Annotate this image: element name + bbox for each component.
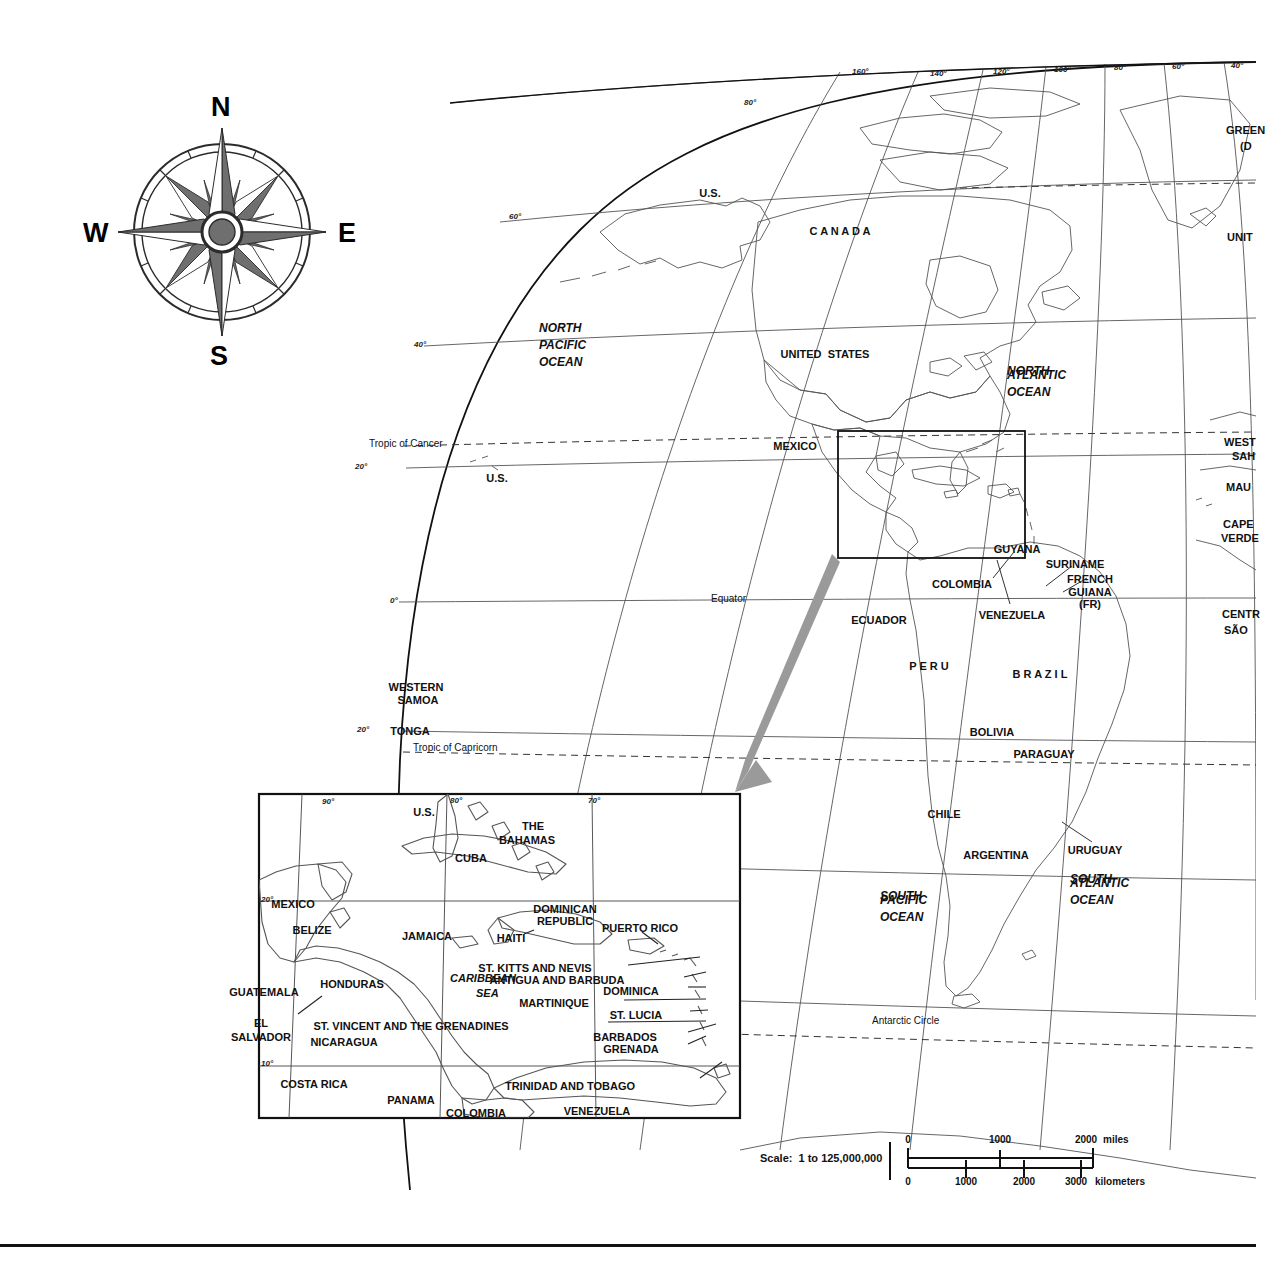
ocean-label-north-atlantic: NORTH ATLANTIC OCEAN bbox=[1007, 365, 1066, 391]
longitude-label-160: 160° bbox=[852, 68, 869, 77]
country-label-argentina: ARGENTINA bbox=[963, 849, 1028, 861]
coast-arctic-islands-2 bbox=[880, 152, 1008, 190]
coast-lesser-antilles bbox=[1020, 494, 1034, 544]
inset-label-haiti: HAITI bbox=[497, 932, 526, 944]
latitude-label-80: 80° bbox=[744, 99, 756, 108]
longitude-label-120: 120° bbox=[993, 68, 1010, 77]
longitude-label-80: 80° bbox=[1114, 64, 1126, 73]
edge-label-unit: UNIT bbox=[1227, 231, 1253, 243]
inset-label-dominica: DOMINICA bbox=[603, 985, 659, 997]
scalebar-miles-label-1000: 1000 bbox=[989, 1134, 1011, 1145]
scalebar-km-label-2000: 2000 bbox=[1013, 1176, 1035, 1187]
tropic-of-cancer-label: Tropic of Cancer bbox=[369, 438, 443, 449]
coast-tierra-del-fuego bbox=[952, 994, 980, 1008]
edge-label-mau: MAU bbox=[1226, 481, 1251, 493]
edge-label-centr: CENTR bbox=[1222, 608, 1260, 620]
latitude-label-20s: 20° bbox=[357, 726, 369, 735]
edge-label-west: WEST bbox=[1224, 436, 1256, 448]
country-label-p-e-r-u: P E R U bbox=[909, 660, 949, 672]
edge-label-sah: SAH bbox=[1232, 450, 1255, 462]
country-label-suriname: SURINAME bbox=[1046, 558, 1105, 570]
coast-newfoundland bbox=[1042, 286, 1080, 310]
inset-label-belize: BELIZE bbox=[292, 924, 331, 936]
inset-label-trinidad-and-tobago: TRINIDAD AND TOBAGO bbox=[505, 1080, 635, 1092]
scalebar-km-label-0: 0 bbox=[905, 1176, 911, 1187]
edge-label-verde: VERDE bbox=[1221, 532, 1259, 544]
country-label-guiana: GUIANA bbox=[1068, 586, 1111, 598]
coast-falklands bbox=[1022, 950, 1036, 960]
edge-label-d: (D bbox=[1240, 140, 1252, 152]
edge-label-cape: CAPE bbox=[1223, 518, 1254, 530]
page-bottom-rule bbox=[0, 1244, 1256, 1247]
inset-label-cuba: CUBA bbox=[455, 852, 487, 864]
country-label-b-r-a-z-i-l: B R A Z I L bbox=[1013, 668, 1068, 680]
inset-label-u-s: U.S. bbox=[413, 806, 434, 818]
ocean-label-south-atlantic: SOUTH ATLANTIC OCEAN bbox=[1070, 873, 1129, 899]
country-label-chile: CHILE bbox=[928, 808, 961, 820]
country-label-guyana: GUYANA bbox=[994, 543, 1041, 555]
parallel-0 bbox=[399, 598, 1256, 602]
compass-rose-graphic bbox=[118, 128, 326, 336]
inset-label-st-vincent-and-the-grenadines: ST. VINCENT AND THE GRENADINES bbox=[313, 1020, 508, 1032]
inset-label-barbados: BARBADOS bbox=[593, 1031, 657, 1043]
inset-label-jamaica: JAMAICA bbox=[402, 930, 452, 942]
compass-east-label: E bbox=[338, 218, 356, 249]
inset-label-st-lucia: ST. LUCIA bbox=[610, 1009, 663, 1021]
country-label-samoa: SAMOA bbox=[398, 694, 439, 706]
inset-longitude-label-70: 70° bbox=[588, 797, 600, 806]
scalebar-miles-unit: miles bbox=[1103, 1134, 1129, 1145]
coast-united-states bbox=[764, 360, 1010, 452]
inset-label-republic: REPUBLIC bbox=[537, 915, 593, 927]
south-pacific-line-3: OCEAN bbox=[880, 911, 927, 924]
compass-south-label: S bbox=[210, 341, 228, 372]
country-label-tonga: TONGA bbox=[390, 725, 430, 737]
coast-hudson-bay bbox=[926, 256, 998, 318]
equator-label: Equator bbox=[711, 593, 746, 604]
country-label-ecuador: ECUADOR bbox=[851, 614, 907, 626]
scalebar-miles-label-2000: 2000 bbox=[1075, 1134, 1097, 1145]
inset-label-honduras: HONDURAS bbox=[320, 978, 384, 990]
tropic-of-cancer-line bbox=[404, 432, 1256, 446]
coast-greenland bbox=[1120, 96, 1250, 228]
inset-label-salvador: SALVADOR bbox=[231, 1031, 291, 1043]
latitude-label-60: 60° bbox=[509, 213, 521, 222]
inset-label-guatemala: GUATEMALA bbox=[229, 986, 298, 998]
inset-label-colombia: COLOMBIA bbox=[446, 1107, 506, 1119]
south-atlantic-line-3: OCEAN bbox=[1070, 894, 1129, 907]
coast-cape-verde bbox=[1196, 498, 1212, 506]
north-atlantic-line-3: OCEAN bbox=[1007, 386, 1066, 399]
tropic-of-capricorn-line bbox=[403, 752, 1256, 765]
compass-north-label: N bbox=[211, 92, 231, 123]
inset-caribbean-sea-line-2: SEA bbox=[476, 987, 499, 999]
scale-text: Scale: 1 to 125,000,000 bbox=[760, 1152, 882, 1164]
country-label-french: FRENCH bbox=[1067, 573, 1113, 585]
coast-arctic-islands-1 bbox=[860, 114, 1002, 154]
edge-label-s-o: SÃO bbox=[1224, 624, 1248, 636]
coast-hawaii bbox=[470, 456, 498, 470]
inset-label-martinique: MARTINIQUE bbox=[519, 997, 589, 1009]
inset-label-nicaragua: NICARAGUA bbox=[310, 1036, 377, 1048]
parallel-20 bbox=[406, 454, 1256, 468]
tropic-of-capricorn-label: Tropic of Capricorn bbox=[413, 742, 498, 753]
inset-label-mexico: MEXICO bbox=[271, 898, 314, 910]
longitude-label-60: 60° bbox=[1172, 63, 1184, 72]
scalebar-km-label-3000: 3000 bbox=[1065, 1176, 1087, 1187]
inset-label-puerto-rico: PUERTO RICO bbox=[602, 922, 678, 934]
inset-label-el: EL bbox=[254, 1017, 268, 1029]
parallel-s20 bbox=[402, 731, 1256, 742]
coast-uk bbox=[1190, 208, 1216, 226]
north-pacific-line-3: OCEAN bbox=[539, 356, 586, 369]
coast-central-america bbox=[886, 512, 918, 552]
scalebar-km-unit: kilometers bbox=[1095, 1176, 1145, 1187]
compass-hub bbox=[209, 219, 235, 245]
inset-longitude-label-80: 80° bbox=[450, 797, 462, 806]
coast-yucatan bbox=[876, 452, 904, 476]
inset-label-st-kitts-and-nevis: ST. KITTS AND NEVIS bbox=[478, 962, 591, 974]
inset-latitude-label-10: 10° bbox=[261, 1060, 273, 1069]
country-label-paraguay: PARAGUAY bbox=[1013, 748, 1074, 760]
north-atlantic-line-2: ATLANTIC bbox=[1007, 369, 1066, 382]
inset-label-costa-rica: COSTA RICA bbox=[280, 1078, 347, 1090]
country-label-bolivia: BOLIVIA bbox=[970, 726, 1015, 738]
scalebar-miles-label-0: 0 bbox=[905, 1134, 911, 1145]
longitude-label-140: 140° bbox=[930, 70, 947, 79]
